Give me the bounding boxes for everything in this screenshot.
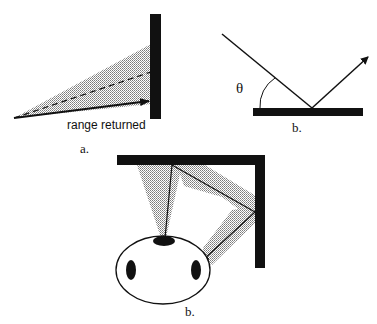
figure-b-robot [116, 155, 265, 304]
range-returned-label: range returned [67, 118, 146, 132]
reflecting-surface [253, 108, 363, 116]
figure-b-top-caption: b. [292, 120, 302, 136]
sensor-left [126, 260, 136, 280]
ceiling-wall [117, 155, 265, 165]
sonar-reflection-diagram [0, 0, 377, 324]
reflected-ray-arrow [312, 57, 368, 108]
beam-up [137, 165, 182, 238]
sonar-beam-cone [14, 44, 151, 118]
figure-b-bottom-caption: b. [185, 304, 195, 320]
sensor-right [191, 260, 201, 280]
figure-a-caption: a. [80, 141, 89, 157]
side-wall [255, 155, 265, 268]
figure-a [14, 14, 161, 119]
figure-b-incidence [222, 34, 368, 116]
theta-label: θ [236, 80, 243, 97]
wall [150, 14, 161, 119]
angle-arc [260, 78, 275, 108]
sensor-top [153, 236, 175, 246]
